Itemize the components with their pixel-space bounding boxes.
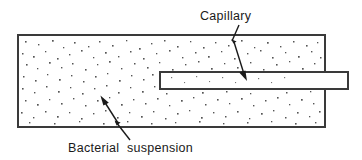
capillary-tube	[160, 72, 348, 89]
capillary-outline	[160, 72, 348, 89]
figure-canvas: Capillary Bacterial suspension	[0, 0, 362, 160]
capillary-label: Capillary	[200, 9, 252, 23]
bacterial-suspension-label: Bacterial suspension	[68, 141, 193, 155]
capillary-assay-figure: Capillary Bacterial suspension	[0, 0, 362, 160]
